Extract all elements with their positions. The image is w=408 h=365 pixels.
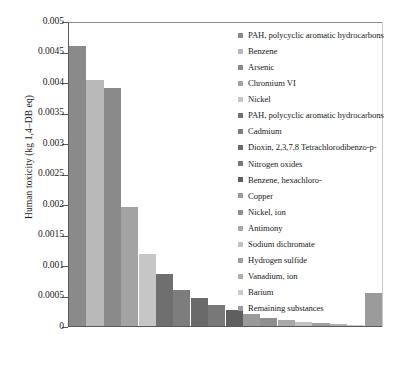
- legend-item-label: Vanadium, ion: [248, 272, 297, 281]
- legend-item[interactable]: Nitrogen oxides: [238, 156, 406, 172]
- legend-swatch-icon: [238, 306, 243, 311]
- legend-swatch-icon: [238, 242, 243, 247]
- bar[interactable]: [330, 324, 347, 326]
- y-tick-label: 0.002: [43, 199, 64, 209]
- legend-item-label: Barium: [248, 288, 273, 297]
- legend-item[interactable]: Sodium dichromate: [238, 236, 406, 252]
- y-tick-label: 0.001: [43, 260, 64, 270]
- legend-item[interactable]: Benzene: [238, 43, 406, 59]
- legend-item-label: Chromium VI: [248, 79, 296, 88]
- legend-item[interactable]: Nickel: [238, 91, 406, 107]
- y-tick-label: 0: [59, 321, 64, 331]
- legend-swatch-icon: [238, 145, 243, 150]
- legend-item[interactable]: Dioxin, 2,3,7,8 Tetrachlorodibenzo-p-: [238, 140, 406, 156]
- bar[interactable]: [260, 318, 277, 327]
- legend-item[interactable]: PAH, polycyclic aromatic hydrocarbons: [238, 27, 406, 43]
- legend-item-label: Dioxin, 2,3,7,8 Tetrachlorodibenzo-p-: [248, 143, 377, 152]
- legend-item[interactable]: PAH, polycyclic aromatic hydrocarbons: [238, 107, 406, 123]
- bar[interactable]: [191, 298, 208, 326]
- bar[interactable]: [104, 88, 121, 326]
- bar[interactable]: [347, 325, 364, 326]
- legend-item[interactable]: Vanadium, ion: [238, 268, 406, 284]
- bar[interactable]: [86, 80, 103, 326]
- legend-item-label: Sodium dichromate: [248, 240, 315, 249]
- bar[interactable]: [69, 46, 86, 326]
- legend-item-label: Remaining substances: [248, 304, 324, 313]
- bar[interactable]: [139, 254, 156, 326]
- bar[interactable]: [156, 274, 173, 326]
- legend-swatch-icon: [238, 81, 243, 86]
- y-axis-title: Human toxicity (kg 1,4–DB eq): [24, 57, 34, 257]
- legend-item[interactable]: Cadmium: [238, 124, 406, 140]
- legend-swatch-icon: [238, 129, 243, 134]
- legend-item[interactable]: Arsenic: [238, 59, 406, 75]
- legend-item-label: Cadmium: [248, 127, 282, 136]
- legend-item[interactable]: Chromium VI: [238, 75, 406, 91]
- legend-item-label: Nickel, ion: [248, 208, 286, 217]
- legend-swatch-icon: [238, 177, 243, 182]
- y-tick-label: 0.0045: [38, 46, 64, 56]
- legend-item[interactable]: Remaining substances: [238, 301, 406, 317]
- bar[interactable]: [295, 322, 312, 326]
- bar[interactable]: [121, 207, 138, 326]
- legend-item-label: Benzene, hexachloro-: [248, 176, 322, 185]
- legend-swatch-icon: [238, 33, 243, 38]
- y-tick-label: 0.0015: [38, 229, 64, 239]
- legend-item[interactable]: Barium: [238, 285, 406, 301]
- y-tick-label: 0.005: [43, 16, 64, 26]
- legend-swatch-icon: [238, 161, 243, 166]
- bar[interactable]: [173, 290, 190, 326]
- y-tick-label: 0.004: [43, 77, 64, 87]
- legend-swatch-icon: [238, 113, 243, 118]
- legend-swatch-icon: [238, 210, 243, 215]
- legend-item-label: PAH, polycyclic aromatic hydrocarbons: [248, 111, 384, 120]
- legend-item[interactable]: Copper: [238, 188, 406, 204]
- bar[interactable]: [208, 305, 225, 326]
- legend-item-label: Arsenic: [248, 63, 274, 72]
- y-tick-label: 0.0025: [38, 168, 64, 178]
- legend-swatch-icon: [238, 258, 243, 263]
- legend-item-label: Nitrogen oxides: [248, 160, 302, 169]
- legend-swatch-icon: [238, 274, 243, 279]
- legend-swatch-icon: [238, 49, 243, 54]
- legend-item[interactable]: Hydrogen sulfide: [238, 252, 406, 268]
- y-tick-label: 0.0035: [38, 107, 64, 117]
- legend-item[interactable]: Nickel, ion: [238, 204, 406, 220]
- legend: PAH, polycyclic aromatic hydrocarbonsBen…: [238, 27, 406, 317]
- bar[interactable]: [312, 323, 329, 326]
- legend-item-label: Copper: [248, 192, 273, 201]
- legend-item[interactable]: Antimony: [238, 220, 406, 236]
- legend-swatch-icon: [238, 193, 243, 198]
- legend-swatch-icon: [238, 97, 243, 102]
- legend-item-label: Hydrogen sulfide: [248, 256, 307, 265]
- legend-swatch-icon: [238, 290, 243, 295]
- legend-item-label: Nickel: [248, 95, 271, 104]
- human-toxicity-bar-chart: Human toxicity (kg 1,4–DB eq) 0.0050.004…: [0, 0, 408, 365]
- legend-item-label: Benzene: [248, 47, 277, 56]
- legend-item-label: Antimony: [248, 224, 282, 233]
- y-tick-label: 0.003: [43, 138, 64, 148]
- legend-item-label: PAH, polycyclic aromatic hydrocarbons: [248, 31, 384, 40]
- y-tick-label: 0.0005: [38, 290, 64, 300]
- legend-item[interactable]: Benzene, hexachloro-: [238, 172, 406, 188]
- legend-swatch-icon: [238, 226, 243, 231]
- legend-swatch-icon: [238, 65, 243, 70]
- bar[interactable]: [278, 320, 295, 326]
